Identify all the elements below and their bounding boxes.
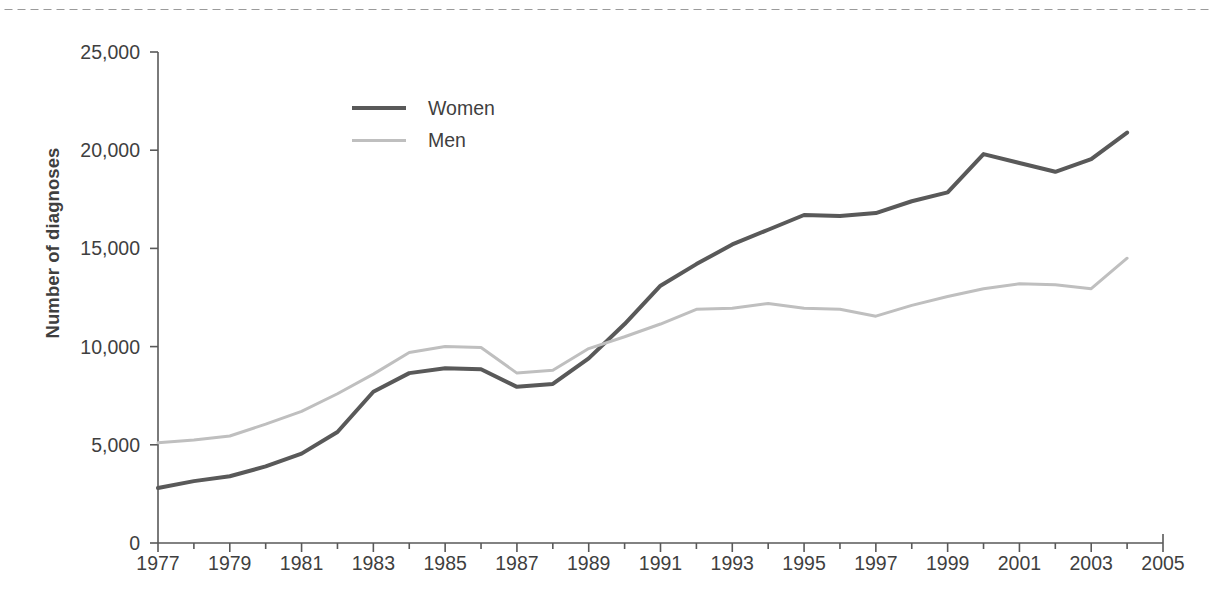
- line-chart: Number of diagnoses 05,00010,00015,00020…: [0, 0, 1209, 614]
- x-tick-label: 2001: [998, 552, 1041, 575]
- legend-swatch-women-icon: [352, 106, 406, 110]
- x-tick-label: 1979: [208, 552, 251, 575]
- legend-label-men: Men: [428, 129, 466, 152]
- legend-item-women[interactable]: Women: [352, 92, 495, 124]
- x-tick-label: 1987: [495, 552, 538, 575]
- x-tick-label: 1983: [352, 552, 395, 575]
- plot-area: [0, 0, 1209, 614]
- legend-label-women: Women: [428, 97, 495, 120]
- data-series: [158, 133, 1127, 488]
- legend-item-men[interactable]: Men: [352, 124, 495, 156]
- x-tick-label: 1999: [926, 552, 969, 575]
- axes: [150, 52, 1163, 552]
- legend-swatch-men-icon: [352, 139, 406, 142]
- chart-legend: Women Men: [352, 92, 495, 156]
- x-tick-label: 1977: [136, 552, 179, 575]
- chart-page: Number of diagnoses 05,00010,00015,00020…: [0, 0, 1209, 614]
- x-tick-label: 1993: [711, 552, 754, 575]
- x-tick-label: 1991: [639, 552, 682, 575]
- x-tick-label: 2005: [1141, 552, 1184, 575]
- x-tick-label: 1995: [782, 552, 825, 575]
- series-line-men: [158, 258, 1127, 443]
- x-tick-label: 1997: [854, 552, 897, 575]
- x-tick-label: 1981: [280, 552, 323, 575]
- x-tick-label: 2003: [1070, 552, 1113, 575]
- x-tick-label: 1989: [567, 552, 610, 575]
- x-tick-label: 1985: [423, 552, 466, 575]
- series-line-women: [158, 133, 1127, 488]
